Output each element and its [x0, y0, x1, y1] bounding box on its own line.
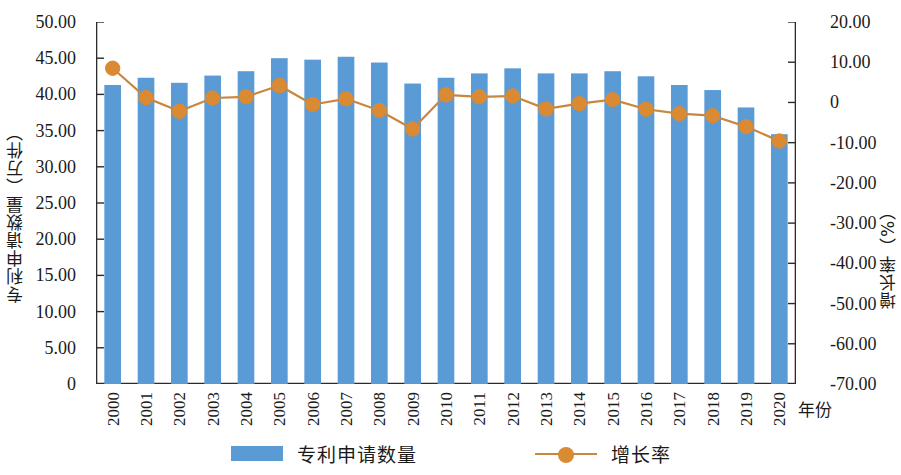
left-tick-label: 10.00 — [36, 303, 77, 321]
bar — [704, 90, 721, 384]
legend-item-bars: 专利申请数量 — [231, 440, 417, 467]
plot-svg — [96, 22, 796, 384]
growth-rate-marker — [439, 88, 453, 102]
legend-line-label: 增长率 — [611, 440, 671, 467]
bar — [438, 78, 455, 384]
x-tick-label: 2009 — [404, 392, 424, 426]
growth-rate-marker — [139, 90, 153, 104]
right-tick-label: -40.00 — [830, 254, 877, 272]
bar — [104, 85, 121, 384]
growth-rate-marker — [105, 61, 119, 75]
legend-line-swatch — [535, 446, 597, 462]
left-tick-label: 0 — [67, 375, 76, 393]
bar — [738, 107, 755, 384]
left-tick-label: 30.00 — [36, 158, 77, 176]
x-tick-label: 2002 — [170, 392, 190, 426]
x-tick-label: 2012 — [504, 392, 524, 426]
growth-rate-marker — [405, 122, 419, 136]
right-tick-label: 10.00 — [830, 53, 871, 71]
bar — [638, 76, 655, 384]
x-tick-label: 2007 — [337, 392, 357, 426]
x-tick-label: 2015 — [604, 392, 624, 426]
growth-rate-marker — [272, 78, 286, 92]
growth-rate-marker — [639, 102, 653, 116]
bar — [571, 73, 588, 384]
left-tick-label: 15.00 — [36, 266, 77, 284]
x-tick-label: 2018 — [704, 392, 724, 426]
left-tick-label: 45.00 — [36, 49, 77, 67]
bar — [771, 134, 788, 384]
legend-bar-label: 专利申请数量 — [297, 440, 417, 467]
right-tick-label: -50.00 — [830, 295, 877, 313]
right-tick-label: -60.00 — [830, 335, 877, 353]
x-tick-label: 2010 — [437, 392, 457, 426]
growth-rate-marker — [672, 107, 686, 121]
x-tick-label: 2003 — [204, 392, 224, 426]
growth-rate-marker — [339, 92, 353, 106]
right-tick-label: -10.00 — [830, 134, 877, 152]
right-tick-label: -30.00 — [830, 214, 877, 232]
growth-rate-marker — [705, 109, 719, 123]
bar — [171, 83, 188, 384]
x-tick-label: 2014 — [570, 392, 590, 426]
x-tick-label: 2005 — [270, 392, 290, 426]
left-axis-tick-labels: 05.0010.0015.0020.0025.0030.0035.0040.00… — [0, 0, 90, 475]
growth-rate-marker — [205, 91, 219, 105]
x-tick-label: 2017 — [670, 392, 690, 426]
chart-legend: 专利申请数量 增长率 — [0, 440, 901, 467]
growth-rate-marker — [172, 104, 186, 118]
x-tick-label: 2004 — [237, 392, 257, 426]
growth-rate-marker — [505, 89, 519, 103]
x-tick-label: 2020 — [770, 392, 790, 426]
right-tick-label: 20.00 — [830, 13, 871, 31]
left-tick-label: 25.00 — [36, 194, 77, 212]
growth-rate-marker — [539, 102, 553, 116]
bar — [238, 71, 255, 384]
x-tick-label: 2011 — [470, 392, 490, 425]
growth-rate-marker — [305, 97, 319, 111]
left-tick-label: 35.00 — [36, 122, 77, 140]
growth-rate-marker — [239, 90, 253, 104]
plot-area — [96, 22, 796, 384]
x-tick-label: 2000 — [104, 392, 124, 426]
x-tick-label: 2008 — [370, 392, 390, 426]
growth-rate-marker — [772, 134, 786, 148]
x-tick-label: 2019 — [737, 392, 757, 426]
x-tick-label: 2006 — [304, 392, 324, 426]
bar — [271, 58, 288, 384]
bar — [471, 73, 488, 384]
patent-application-chart: 专利申请数量（万件） 增长率（%） 年份 05.0010.0015.0020.0… — [0, 0, 901, 475]
growth-rate-marker — [472, 90, 486, 104]
growth-rate-marker — [372, 103, 386, 117]
growth-rate-marker — [572, 96, 586, 110]
bar — [538, 73, 555, 384]
left-tick-label: 50.00 — [36, 13, 77, 31]
right-tick-label: 0 — [830, 93, 839, 111]
left-tick-label: 40.00 — [36, 85, 77, 103]
growth-rate-marker — [605, 92, 619, 106]
bar — [204, 76, 221, 384]
left-tick-label: 20.00 — [36, 230, 77, 248]
growth-rate-marker — [739, 119, 753, 133]
left-tick-label: 5.00 — [45, 339, 77, 357]
right-tick-label: -70.00 — [830, 375, 877, 393]
bar — [504, 68, 521, 384]
bar — [671, 85, 688, 384]
x-tick-label: 2013 — [537, 392, 557, 426]
right-axis-tick-labels: -70.00-60.00-50.00-40.00-30.00-20.00-10.… — [812, 0, 900, 475]
right-tick-label: -20.00 — [830, 174, 877, 192]
bar — [604, 71, 621, 384]
x-tick-label: 2016 — [637, 392, 657, 426]
x-tick-label: 2001 — [137, 392, 157, 426]
legend-bar-swatch — [231, 446, 283, 461]
bar — [138, 78, 155, 384]
legend-line-marker — [558, 447, 574, 463]
legend-item-line: 增长率 — [535, 440, 671, 467]
